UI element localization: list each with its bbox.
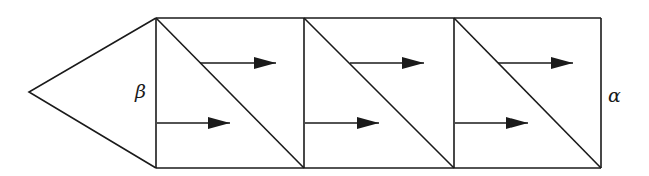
cells [156,18,601,168]
cell-diagonal [156,18,304,168]
diagram-canvas [0,0,649,176]
cell-1 [156,18,304,168]
cell-diagonal [454,18,601,168]
alpha-label: α [608,86,621,105]
beta-label: β [135,82,146,101]
cell-2 [304,18,454,168]
cell-diagonal [304,18,454,168]
cell-3 [454,18,601,168]
